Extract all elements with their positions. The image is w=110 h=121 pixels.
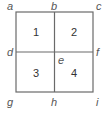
quadrant-label-4: 4 xyxy=(71,67,77,79)
point-label-h: h xyxy=(51,96,57,108)
point-label-e: e xyxy=(58,54,64,66)
quadrant-label-2: 2 xyxy=(71,26,77,38)
point-label-g: g xyxy=(7,96,14,108)
point-label-c: c xyxy=(96,0,102,12)
point-label-d: d xyxy=(7,46,14,58)
quadrant-label-1: 1 xyxy=(33,26,39,38)
point-label-b: b xyxy=(51,0,57,12)
point-label-i: i xyxy=(96,96,99,108)
quadrant-grid-diagram: a b c d e f g h i 1 2 3 4 xyxy=(0,0,110,121)
point-label-a: a xyxy=(7,0,13,12)
quadrant-label-3: 3 xyxy=(33,67,39,79)
point-label-f: f xyxy=(96,46,100,58)
